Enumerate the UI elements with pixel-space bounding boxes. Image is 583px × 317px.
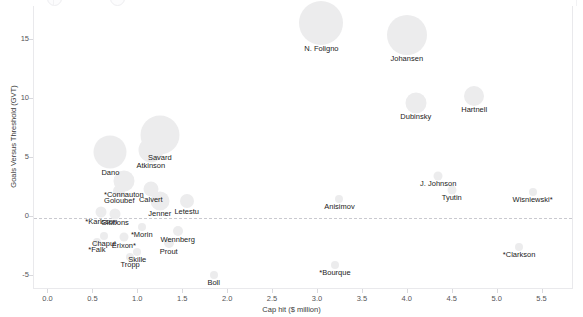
data-point-label: Letestu [174,207,199,216]
data-point-label: Anisimov [324,202,354,211]
data-point-label: Dubinsky [400,112,431,121]
x-tick-label: 5.5 [525,294,559,303]
data-point-label: Hartnell [461,105,487,114]
y-tick-mark [29,39,33,40]
x-tick-label: 4.5 [435,294,469,303]
data-point-label: Wennberg [160,235,194,244]
data-point-label: Wisniewski* [513,195,553,204]
y-axis: Goals Versus Threshold (GVT) [0,0,33,300]
x-tick-mark [92,289,93,293]
data-point-label: Gibbons [101,218,129,227]
bubble-scatter-chart: Goals Versus Threshold (GVT) 151050-5 0.… [0,0,583,317]
y-axis-title: Goals Versus Threshold (GVT) [9,62,18,212]
data-point-label: *Morin [131,230,153,239]
data-point-label: Tropp [120,260,139,269]
data-point-label: *Bourque [319,268,350,277]
y-tick-mark [29,98,33,99]
data-point-bubble[interactable] [464,86,484,106]
y-tick-label: 10 [5,94,29,102]
x-tick-label: 4.0 [390,294,424,303]
x-tick-label: 5.0 [480,294,514,303]
data-point-bubble[interactable] [94,136,127,169]
x-tick-label: 2.5 [255,294,289,303]
x-tick-mark [452,289,453,293]
data-point-label: *Falk [88,245,105,254]
data-point-label: *Clarkson [503,250,536,259]
data-point-bubble[interactable] [387,15,427,55]
data-point-bubble[interactable] [180,194,194,208]
chrome-divider-2 [576,0,577,6]
data-point-bubble[interactable] [299,1,343,45]
x-tick-label: 1.0 [120,294,154,303]
data-point-label: Jenner [148,209,171,218]
data-point-label: Johansen [391,54,424,63]
y-tick-label: 5 [5,153,29,161]
x-tick-mark [272,289,273,293]
y-tick-label: 0 [5,212,29,220]
x-tick-mark [542,289,543,293]
x-tick-mark [497,289,498,293]
data-point-label: Boll [207,278,220,287]
x-axis-title: Cap hit ($ million) [0,305,583,314]
y-tick-mark [29,216,33,217]
x-tick-label: 0.0 [30,294,64,303]
x-tick-label: 3.5 [345,294,379,303]
data-point-label: Atkinson [136,161,165,170]
x-tick-label: 0.5 [75,294,109,303]
x-tick-label: 1.5 [165,294,199,303]
x-tick-mark [407,289,408,293]
y-tick-mark [29,157,33,158]
x-tick-mark [317,289,318,293]
x-tick-mark [227,289,228,293]
data-point-label: Erixon* [112,241,136,250]
y-tick-label: 15 [5,35,29,43]
x-tick-mark [362,289,363,293]
data-point-label: J. Johnson [420,179,456,188]
data-point-label: Prout [160,247,178,256]
x-tick-mark [137,289,138,293]
data-point-bubble[interactable] [405,92,426,113]
y-tick-mark [29,275,33,276]
y-tick-label: -5 [5,271,29,279]
x-tick-label: 2.0 [210,294,244,303]
data-point-label: Goloubef [104,196,134,205]
x-tick-mark [182,289,183,293]
data-point-label: Calvert [139,195,163,204]
x-tick-mark [47,289,48,293]
data-point-label: Tyutin [442,193,462,202]
data-point-label: Dano [101,168,119,177]
x-tick-label: 3.0 [300,294,334,303]
data-point-label: N. Foligno [304,44,338,53]
